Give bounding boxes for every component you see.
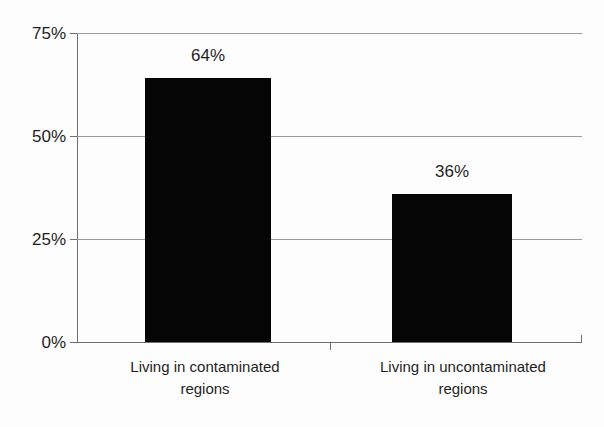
x-axis-category-label-1-line-1: Living in contaminated bbox=[80, 356, 330, 378]
x-axis-category-label-1-line-2: regions bbox=[80, 378, 330, 400]
y-tick-mark-50 bbox=[70, 136, 77, 137]
x-axis-category-label-2-line-2: regions bbox=[332, 378, 594, 400]
plot-area bbox=[77, 33, 582, 342]
x-axis-category-label-1: Living in contaminated regions bbox=[80, 356, 330, 400]
bar-living-in-uncontaminated-regions bbox=[392, 194, 512, 342]
x-axis-category-label-2-line-1: Living in uncontaminated bbox=[332, 356, 594, 378]
y-axis-label-25: 25% bbox=[0, 231, 66, 248]
y-tick-mark-75 bbox=[70, 33, 77, 34]
gridline-75 bbox=[77, 33, 582, 34]
x-axis-category-separator-tick bbox=[330, 342, 331, 350]
y-axis-label-75: 75% bbox=[0, 25, 66, 42]
bar-living-in-contaminated-regions bbox=[145, 78, 271, 342]
x-axis-right-edge-tick bbox=[581, 335, 582, 343]
y-tick-mark-0 bbox=[70, 342, 77, 343]
x-axis-category-label-2: Living in uncontaminated regions bbox=[332, 356, 594, 400]
y-axis-label-0: 0% bbox=[0, 334, 66, 351]
data-label-bar-1: 64% bbox=[145, 47, 271, 64]
y-axis-label-50: 50% bbox=[0, 128, 66, 145]
chart-figure: 75% 50% 25% 0% 64% 36% Living in contami… bbox=[0, 0, 604, 427]
data-label-bar-2: 36% bbox=[392, 163, 512, 180]
y-tick-mark-25 bbox=[70, 239, 77, 240]
